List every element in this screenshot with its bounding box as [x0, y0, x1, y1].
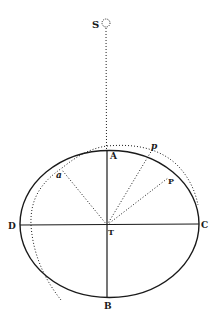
sun-line — [106, 28, 107, 150]
label-a-upper: A — [109, 151, 118, 161]
radius-tp — [107, 178, 168, 225]
radius-ta — [62, 170, 107, 225]
sun-circle — [102, 19, 110, 27]
radius-tp-small — [107, 150, 152, 225]
label-c: C — [201, 220, 208, 230]
label-d: D — [8, 221, 16, 231]
label-p-lower: p — [151, 141, 158, 151]
dotted-arc — [31, 145, 198, 300]
orbit-diagram: S A B C D T P p a — [0, 0, 220, 323]
label-p-upper: P — [168, 176, 174, 186]
label-b: B — [104, 301, 112, 311]
label-s: S — [92, 19, 99, 30]
label-t: T — [108, 227, 114, 237]
axis-dc — [20, 224, 199, 225]
label-a-lower: a — [56, 170, 62, 180]
